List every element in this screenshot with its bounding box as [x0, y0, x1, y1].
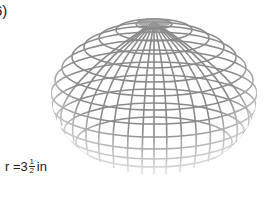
radius-prefix: r = [5, 159, 21, 174]
radius-denominator: 2 [30, 167, 34, 175]
radius-label: r = 3 1 2 in [5, 158, 47, 175]
radius-fraction: 1 2 [29, 158, 35, 175]
radius-unit: in [37, 159, 47, 174]
radius-whole: 3 [21, 159, 28, 174]
radius-numerator: 1 [30, 158, 34, 166]
